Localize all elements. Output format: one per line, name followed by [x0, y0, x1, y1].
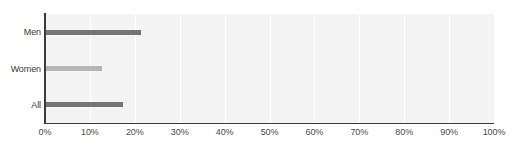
x-tick-label-40%: 40%	[216, 126, 234, 138]
bar-women	[45, 66, 102, 71]
x-tick-label-20%: 20%	[126, 126, 144, 138]
gridline-100%	[494, 14, 495, 123]
y-axis-line	[44, 13, 46, 124]
x-axis-tick-labels: 0%10%20%30%40%50%60%70%80%90%100%	[0, 126, 515, 142]
x-tick-label-60%: 60%	[306, 126, 324, 138]
bar-series	[45, 14, 494, 123]
category-label-men: Men	[0, 27, 41, 37]
category-axis-labels: MenWomenAll	[0, 14, 41, 123]
plot-area	[45, 14, 494, 123]
x-tick-label-100%: 100%	[483, 126, 506, 138]
x-tick-label-50%: 50%	[261, 126, 279, 138]
x-tick-label-70%: 70%	[350, 126, 368, 138]
bar-chart: MenWomenAll 0%10%20%30%40%50%60%70%80%90…	[0, 0, 515, 148]
x-tick-label-80%: 80%	[395, 126, 413, 138]
clipped-chart-title	[0, 0, 515, 9]
bar-men	[45, 30, 141, 35]
x-tick-label-30%: 30%	[171, 126, 189, 138]
x-tick-label-10%: 10%	[81, 126, 99, 138]
bar-all	[45, 102, 123, 107]
x-tick-label-90%: 90%	[440, 126, 458, 138]
x-axis-line	[44, 123, 494, 124]
x-tick-label-0%: 0%	[39, 126, 52, 138]
category-label-all: All	[0, 100, 41, 110]
category-label-women: Women	[0, 64, 41, 74]
